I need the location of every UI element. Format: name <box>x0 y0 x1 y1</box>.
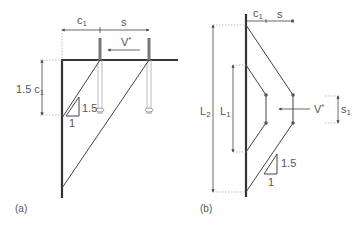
diagram-canvas: c1 s V* 1.5 c1 1.5 1 (a) <box>0 0 359 227</box>
label-s: s <box>121 16 127 28</box>
caption-b: (b) <box>200 203 212 214</box>
label-L1: L1 <box>220 105 231 119</box>
slope-triangle-b <box>264 154 277 174</box>
slope-triangle <box>66 97 79 116</box>
slope-rise: 1.5 <box>82 102 97 114</box>
label-s-b: s <box>277 8 283 20</box>
figure-a: c1 s V* 1.5 c1 1.5 1 (a) <box>15 14 178 214</box>
label-load: V* <box>121 35 131 48</box>
label-c1: c1 <box>77 14 88 28</box>
label-s1: s1 <box>341 103 352 117</box>
anchor-2 <box>145 38 153 113</box>
slope-rise-b: 1.5 <box>281 157 296 169</box>
caption-a: (a) <box>15 203 27 214</box>
label-height: 1.5 c1 <box>16 83 45 97</box>
figure-b: c1 s L2 L1 V* s1 1.5 1 (b) <box>200 7 352 214</box>
label-L2: L2 <box>200 105 211 119</box>
label-c1-b: c1 <box>253 7 264 21</box>
label-load-b: V* <box>314 102 324 115</box>
slope-run: 1 <box>69 117 75 129</box>
slope-run-b: 1 <box>268 176 274 188</box>
